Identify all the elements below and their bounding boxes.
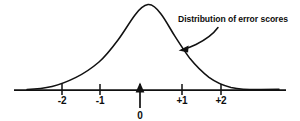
- origin-pointer-arrowhead-icon: [136, 83, 145, 93]
- annotation-label-distribution: Distribution of error scores: [178, 14, 288, 24]
- tick-label-plus-2: +2: [215, 95, 227, 106]
- tick-label-minus-1: -1: [96, 95, 105, 106]
- normal-distribution-figure: -2 -1 +1 +2 0 Distribution of error scor…: [0, 0, 300, 121]
- origin-label-zero: 0: [137, 110, 143, 121]
- tick-label-plus-1: +1: [176, 95, 188, 106]
- annotation-arrowhead-icon: [179, 45, 189, 52]
- tick-label-minus-2: -2: [58, 95, 67, 106]
